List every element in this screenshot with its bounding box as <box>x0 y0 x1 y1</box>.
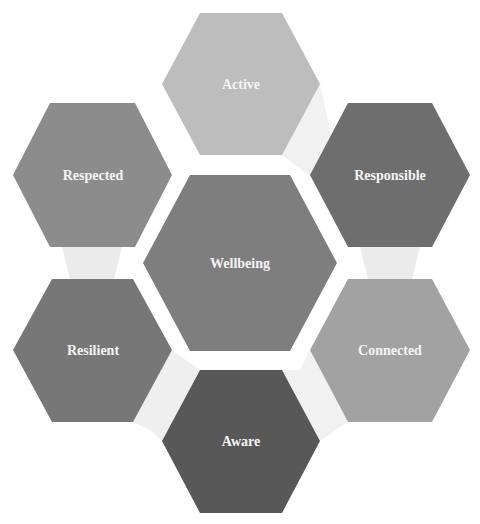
connector-responsible-connected <box>360 247 420 279</box>
label-aware: Aware <box>222 434 260 449</box>
label-connected: Connected <box>358 343 422 358</box>
label-respected: Respected <box>63 168 124 183</box>
hexagon-responsible: Responsible <box>310 103 470 247</box>
label-active: Active <box>222 77 260 92</box>
label-responsible: Responsible <box>354 168 426 183</box>
connector-resilient-respected <box>62 247 122 279</box>
hexagon-respected: Respected <box>13 103 172 247</box>
wellbeing-hexagon-diagram: Active Respected Responsible Wellbeing R… <box>0 0 480 524</box>
label-resilient: Resilient <box>67 343 119 358</box>
label-wellbeing: Wellbeing <box>210 256 270 271</box>
hexagon-wellbeing: Wellbeing <box>143 175 337 351</box>
